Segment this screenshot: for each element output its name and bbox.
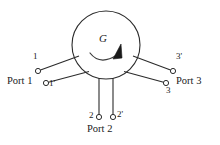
figure-root: G 1 1' Port 1 2 2' Port 2 3' 3 Port 3 [0,0,220,145]
port-1-leads [35,56,89,86]
port-2-leads [96,78,115,119]
device-symbol-label: G [99,33,107,44]
terminal-label-2: 2 [89,111,94,120]
terminal-node-3-prime [170,68,175,73]
terminal-node-1 [35,68,40,73]
port-3-leads [124,56,176,86]
terminal-label-3: 3 [166,86,171,95]
terminal-label-1-prime: 1' [49,79,55,88]
terminal-label-1: 1 [33,52,38,61]
terminal-node-1-prime [43,80,48,85]
port-label-2: Port 2 [87,124,112,135]
lead-terminal-1 [41,56,80,70]
lead-terminal-3 [124,72,164,83]
lead-terminal-3-prime [133,56,171,70]
port-label-1: Port 1 [7,76,32,87]
terminal-label-2-prime: 2' [117,110,123,119]
port-label-3: Port 3 [176,76,201,87]
device-body-circle [72,11,140,79]
terminal-label-3-prime: 3' [176,52,182,61]
rotation-arrow-icon [90,44,122,60]
terminal-node-2 [96,114,101,119]
terminal-node-2-prime [110,114,115,119]
